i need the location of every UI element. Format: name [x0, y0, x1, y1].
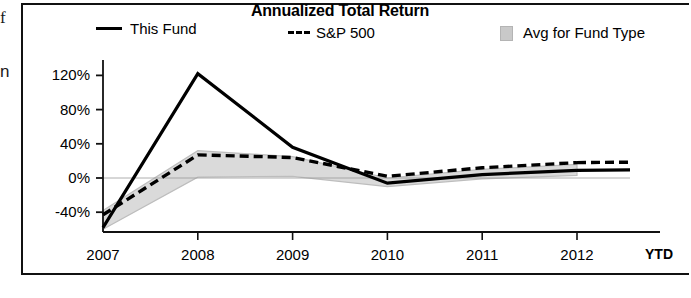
series-band-avg-for-fund-type: [103, 151, 577, 230]
plot-area: [0, 0, 691, 298]
series-line-this-fund: [103, 74, 577, 228]
chart-page: f n Annualized Total Return This Fund S&…: [0, 0, 691, 298]
